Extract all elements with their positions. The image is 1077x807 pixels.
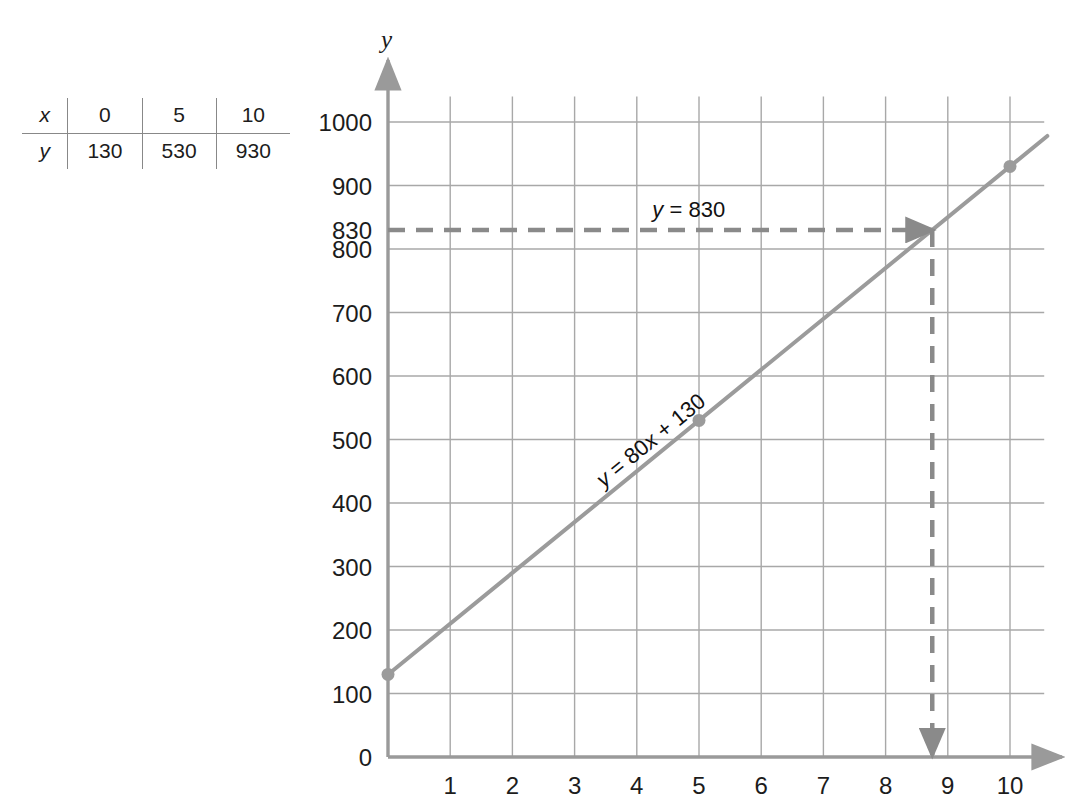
x-axis-tick-label: 4 <box>630 772 643 799</box>
y-axis-tick-label: 500 <box>332 427 372 454</box>
x-axis-tick-label: 9 <box>941 772 954 799</box>
y-axis-tick-label: 700 <box>332 300 372 327</box>
y-axis-tick-label: 300 <box>332 554 372 581</box>
x-axis-tick-label: 7 <box>817 772 830 799</box>
x-axis-tick-label: 3 <box>568 772 581 799</box>
x-axis-tick-label: 10 <box>997 772 1024 799</box>
y-axis-tick-label: 1000 <box>319 109 372 136</box>
data-point <box>382 668 395 681</box>
x-axis-tick-label: 5 <box>692 772 705 799</box>
grid-lines <box>388 97 1044 757</box>
horizontal-line-label: y = 830 <box>650 197 725 222</box>
line-chart: y 01002003004005006007008008309001000 12… <box>0 0 1077 807</box>
y-axis-tick-label: 900 <box>332 173 372 200</box>
figure-root: x 0 5 10 y 130 530 930 <box>0 0 1077 807</box>
x-axis-tick-label: 1 <box>444 772 457 799</box>
x-axis-tick-labels: 12345678910 <box>444 772 1024 799</box>
y-axis-tick-label: 200 <box>332 617 372 644</box>
y-axis-title: y <box>378 26 393 53</box>
y-axis-tick-label: 830 <box>332 217 372 244</box>
y-axis-tick-label: 600 <box>332 363 372 390</box>
chart-svg: y 01002003004005006007008008309001000 12… <box>0 0 1077 807</box>
x-axis-tick-label: 2 <box>506 772 519 799</box>
data-point <box>1004 160 1017 173</box>
x-axis-tick-label: 8 <box>879 772 892 799</box>
line-equation-label: y = 80x + 130 <box>590 388 711 493</box>
y-axis-tick-labels: 01002003004005006007008008309001000 <box>319 109 372 771</box>
y-axis-tick-label: 100 <box>332 681 372 708</box>
y-axis-tick-label: 0 <box>359 744 372 771</box>
y-axis-tick-label: 400 <box>332 490 372 517</box>
x-axis-tick-label: 6 <box>755 772 768 799</box>
